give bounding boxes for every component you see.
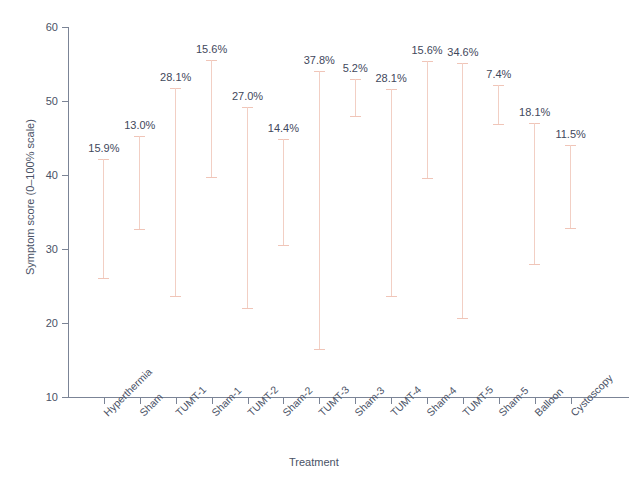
- x-tick-label-sham-3: Sham-3: [352, 384, 386, 418]
- range-bar-tumt-5: [455, 63, 471, 319]
- range-bar-stem: [427, 61, 428, 179]
- chart-figure: 60 50 40 30 20 10 Symptom score (0–100% …: [0, 0, 635, 482]
- percent-label-sham-5: 7.4%: [486, 68, 511, 80]
- range-bar-stem: [175, 88, 176, 297]
- range-bar-cystoscopy: [563, 145, 579, 229]
- percent-label-sham-2: 14.4%: [268, 122, 299, 134]
- percent-label-tumt-1: 28.1%: [160, 71, 191, 83]
- range-bar-cap-bottom: [242, 308, 253, 309]
- x-tick-9: [427, 398, 428, 404]
- range-bar-cap-bottom: [350, 116, 361, 117]
- range-bar-stem: [211, 60, 212, 178]
- range-bar-sham-2: [275, 139, 291, 246]
- x-tick-12: [535, 398, 536, 404]
- range-bar-sham-5: [491, 85, 507, 124]
- x-tick-label-balloon: Balloon: [532, 385, 565, 418]
- x-tick-label-tumt-3: TUMT-3: [316, 383, 351, 418]
- range-bar-hyperthermia: [96, 159, 112, 279]
- range-bar-cap-bottom: [98, 278, 109, 279]
- percent-label-tumt-3: 37.8%: [304, 54, 335, 66]
- range-bar-cap-bottom: [314, 349, 325, 350]
- range-bar-cap-bottom: [206, 177, 217, 178]
- x-tick-13: [571, 398, 572, 404]
- range-bar-stem: [319, 71, 320, 351]
- x-tick-1: [140, 398, 141, 404]
- x-tick-label-sham: Sham: [137, 391, 165, 419]
- x-tick-0: [104, 398, 105, 404]
- x-tick-label-tumt-4: TUMT-4: [388, 383, 423, 418]
- range-bar-tumt-4: [383, 89, 399, 297]
- x-tick-label-tumt-1: TUMT-1: [173, 383, 208, 418]
- x-tick-5: [283, 398, 284, 404]
- range-bar-tumt-2: [240, 107, 256, 309]
- percent-label-sham-1: 15.6%: [196, 43, 227, 55]
- range-bar-stem: [103, 159, 104, 279]
- range-bar-stem: [283, 139, 284, 246]
- range-bar-sham-3: [347, 79, 363, 117]
- percent-label-tumt-4: 28.1%: [375, 72, 406, 84]
- x-tick-label-cystoscopy: Cystoscopy: [568, 372, 615, 419]
- range-bar-stem: [139, 136, 140, 230]
- percent-label-tumt-5: 34.6%: [447, 46, 478, 58]
- plot-area: Hyperthermia15.9%Sham13.0%TUMT-128.1%Sha…: [0, 0, 635, 482]
- range-bar-cap-bottom: [457, 318, 468, 319]
- range-bar-cap-bottom: [278, 245, 289, 246]
- x-tick-11: [499, 398, 500, 404]
- x-tick-4: [248, 398, 249, 404]
- range-bar-stem: [462, 63, 463, 319]
- range-bar-cap-bottom: [529, 264, 540, 265]
- percent-label-sham: 13.0%: [124, 119, 155, 131]
- range-bar-cap-bottom: [386, 296, 397, 297]
- percent-label-hyperthermia: 15.9%: [88, 142, 119, 154]
- x-tick-label-sham-2: Sham-2: [280, 384, 314, 418]
- x-tick-3: [212, 398, 213, 404]
- x-tick-label-sham-5: Sham-5: [496, 384, 530, 418]
- percent-label-balloon: 18.1%: [519, 106, 550, 118]
- range-bar-tumt-1: [168, 88, 184, 297]
- range-bar-stem: [247, 107, 248, 309]
- x-tick-8: [391, 398, 392, 404]
- range-bar-sham: [132, 136, 148, 230]
- range-bar-stem: [355, 79, 356, 117]
- range-bar-stem: [534, 123, 535, 265]
- range-bar-cap-bottom: [134, 229, 145, 230]
- x-tick-label-sham-1: Sham-1: [209, 384, 243, 418]
- percent-label-cystoscopy: 11.5%: [555, 128, 585, 140]
- x-tick-7: [355, 398, 356, 404]
- x-tick-2: [176, 398, 177, 404]
- percent-label-sham-4: 15.6%: [411, 44, 442, 56]
- range-bar-stem: [498, 85, 499, 124]
- range-bar-cap-bottom: [493, 124, 504, 125]
- x-tick-label-tumt-2: TUMT-2: [245, 383, 280, 418]
- range-bar-cap-bottom: [565, 228, 576, 229]
- x-tick-6: [319, 398, 320, 404]
- range-bar-sham-1: [204, 60, 220, 178]
- range-bar-stem: [391, 89, 392, 297]
- x-tick-label-sham-4: Sham-4: [424, 384, 458, 418]
- range-bar-balloon: [527, 123, 543, 265]
- x-tick-10: [463, 398, 464, 404]
- range-bar-stem: [570, 145, 571, 229]
- range-bar-tumt-3: [311, 71, 327, 351]
- range-bar-sham-4: [419, 61, 435, 179]
- range-bar-cap-bottom: [422, 178, 433, 179]
- percent-label-tumt-2: 27.0%: [232, 90, 263, 102]
- range-bar-cap-bottom: [170, 296, 181, 297]
- x-tick-label-tumt-5: TUMT-5: [460, 383, 495, 418]
- percent-label-sham-3: 5.2%: [343, 62, 368, 74]
